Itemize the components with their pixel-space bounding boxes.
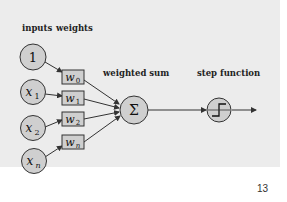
svg-text:x: x (26, 121, 33, 135)
svg-text:n: n (76, 142, 81, 150)
perceptron-diagram: inputs weights weighted sum step functio… (0, 0, 287, 202)
svg-text:w: w (65, 71, 75, 84)
weights-header: weights (55, 23, 93, 33)
edge-input2-weight2 (45, 120, 62, 127)
weight-box-w2: w 2 (62, 112, 84, 127)
sigma-icon: Σ (129, 102, 139, 118)
step-function-node (207, 98, 231, 122)
input-node-x2: x 2 (21, 116, 46, 141)
edge-inputn-weightn (45, 146, 62, 157)
svg-text:1: 1 (29, 50, 37, 65)
svg-text:w: w (65, 113, 75, 126)
sum-node: Σ (120, 96, 148, 124)
svg-text:w: w (65, 92, 75, 105)
input-node-x1: x 1 (21, 80, 46, 105)
svg-text:2: 2 (34, 128, 39, 137)
weight-box-w0: w 0 (62, 70, 84, 85)
edge-weight2-sum (84, 112, 119, 119)
svg-text:1: 1 (76, 98, 80, 106)
edge-input0-weight0 (45, 62, 62, 72)
input-node-xn: x n (22, 149, 47, 174)
inputs-header: inputs (22, 23, 52, 33)
svg-text:1: 1 (34, 92, 39, 101)
svg-text:0: 0 (76, 77, 80, 85)
edge-input1-weight1 (45, 94, 62, 96)
svg-text:2: 2 (76, 119, 80, 127)
page-number: 13 (257, 183, 268, 194)
edge-weightn-sum (84, 116, 120, 142)
svg-text:w: w (65, 136, 75, 149)
step-function-header: step function (197, 68, 260, 78)
svg-text:x: x (26, 85, 33, 99)
weight-box-w1: w 1 (62, 91, 84, 106)
input-node-bias: 1 (20, 44, 46, 70)
svg-text:n: n (35, 161, 40, 170)
weight-box-wn: w n (62, 135, 84, 150)
weighted-sum-header: weighted sum (102, 68, 169, 78)
svg-text:x: x (27, 154, 34, 168)
